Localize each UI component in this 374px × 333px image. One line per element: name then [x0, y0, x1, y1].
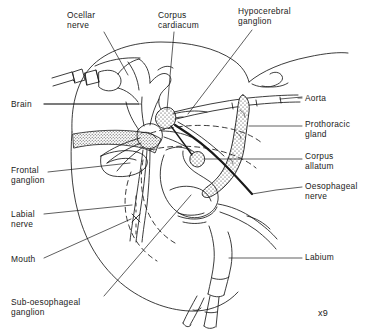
label-ocellar-nerve: Ocellar nerve: [67, 11, 95, 30]
label-hypocerebral-ganglion: Hypocerebral ganglion: [238, 7, 291, 26]
label-frontal-ganglion: Frontal ganglion: [11, 166, 45, 185]
anatomical-figure: Ocellar nerve Corpus cardiacum Hypocereb…: [0, 0, 374, 333]
pharynx-mass: [160, 147, 218, 218]
labial-palps: [183, 296, 219, 328]
antenna-base-segments: [52, 69, 121, 91]
clypeus-labrum-hook: [150, 66, 173, 113]
label-corpus-allatum: Corpus allatum: [305, 152, 334, 171]
compound-eye-band: [73, 130, 161, 153]
scale-magnification-note: x9: [318, 308, 328, 318]
labium-outline: [208, 226, 232, 297]
neck-membrane: [249, 53, 348, 87]
label-mouth: Mouth: [11, 255, 36, 265]
label-prothoracic-gland: Prothoracic gland: [305, 120, 350, 139]
label-sub-oesophageal-ganglion: Sub-oesophageal ganglion: [11, 298, 80, 317]
leader-lines: [44, 30, 302, 296]
label-labium: Labium: [305, 253, 334, 263]
label-labial-nerve: Labial nerve: [11, 210, 35, 229]
label-corpus-cardiacum: Corpus cardiacum: [158, 11, 199, 30]
label-brain: Brain: [11, 100, 32, 110]
corpus-cardiacum-body: [155, 107, 175, 128]
label-oesophageal-nerve: Oesophageal nerve: [305, 182, 358, 201]
frontal-ganglion-connectives: [126, 97, 159, 130]
label-aorta: Aorta: [305, 94, 326, 104]
maxillary-lobes: [218, 204, 277, 249]
